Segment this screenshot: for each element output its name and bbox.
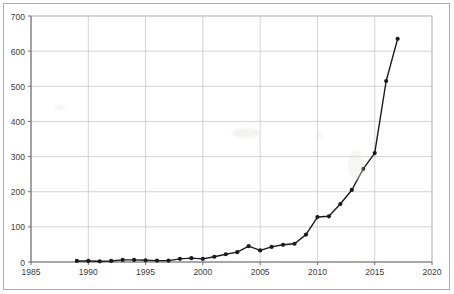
data-point: [132, 258, 136, 262]
data-point: [166, 258, 170, 262]
y-tick-label: 700: [11, 12, 25, 22]
data-point: [86, 259, 90, 263]
data-point: [247, 244, 251, 248]
x-tick-label: 1995: [136, 267, 155, 277]
data-point: [143, 258, 147, 262]
data-point: [75, 259, 79, 263]
plot-area: [31, 16, 432, 262]
data-point: [338, 202, 342, 206]
data-point: [212, 255, 216, 259]
data-point: [304, 232, 308, 236]
x-tick-label: 2020: [423, 267, 442, 277]
line-chart: 0100200300400500600700198519901995200020…: [0, 0, 454, 294]
data-point: [98, 259, 102, 263]
data-point: [315, 215, 319, 219]
data-point: [189, 256, 193, 260]
data-point: [109, 259, 113, 263]
y-tick-label: 0: [20, 258, 25, 268]
x-tick-label: 1990: [79, 267, 98, 277]
data-point: [201, 257, 205, 261]
data-point: [178, 257, 182, 261]
data-point: [327, 214, 331, 218]
data-point: [258, 248, 262, 252]
x-tick-label: 2010: [308, 267, 327, 277]
y-tick-label: 500: [11, 82, 25, 92]
y-tick-label: 400: [11, 117, 25, 127]
data-point: [361, 167, 365, 171]
data-point: [350, 188, 354, 192]
data-point: [155, 258, 159, 262]
x-tick-label: 2015: [365, 267, 384, 277]
data-point: [270, 245, 274, 249]
y-tick-label: 600: [11, 47, 25, 57]
x-tick-label: 2005: [251, 267, 270, 277]
data-point: [396, 37, 400, 41]
data-point: [121, 258, 125, 262]
data-point: [373, 151, 377, 155]
x-tick-label: 2000: [193, 267, 212, 277]
data-point: [235, 250, 239, 254]
data-point: [281, 243, 285, 247]
y-tick-label: 100: [11, 222, 25, 232]
data-point: [224, 252, 228, 256]
x-tick-label: 1985: [22, 267, 41, 277]
data-point: [292, 242, 296, 246]
data-point: [384, 79, 388, 83]
y-tick-label: 200: [11, 187, 25, 197]
y-tick-label: 300: [11, 152, 25, 162]
chart-figure: 0100200300400500600700198519901995200020…: [0, 0, 454, 294]
